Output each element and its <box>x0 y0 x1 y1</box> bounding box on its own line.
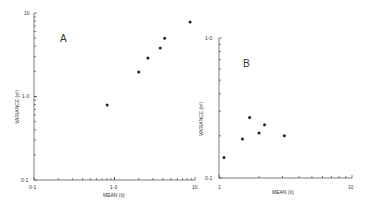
data-point <box>258 131 261 134</box>
b-x-label: MEAN (x̄) <box>272 189 294 195</box>
a-y-label: VARIANCE (s²) <box>14 90 20 124</box>
data-point <box>283 134 286 137</box>
a-x-tick-0.1: 0·1 <box>29 184 36 190</box>
chart-a <box>34 13 195 180</box>
a-y-tick-0.1: 0·1 <box>21 177 28 183</box>
b-points <box>222 116 285 159</box>
a-x-tick-10: 10 <box>192 184 198 190</box>
a-x-label: MEAN (x̄) <box>103 192 125 198</box>
data-point <box>263 123 266 126</box>
a-y-tick-10: 10 <box>24 10 30 16</box>
figure: 10 1·0 0·1 0·1 1·0 10 MEAN (x̄) VARIANCE… <box>0 0 366 207</box>
a-y-tick-1: 1·0 <box>22 93 29 99</box>
a-x-tick-1: 1·0 <box>110 184 117 190</box>
b-y-label: VARIANCE (s²) <box>198 102 204 136</box>
data-point <box>241 137 244 140</box>
b-x-tick-10: 10 <box>348 184 354 190</box>
chart-b <box>219 38 352 178</box>
data-point <box>106 104 109 107</box>
data-point <box>248 116 251 119</box>
b-y-tick-0.1: 0·1 <box>205 175 212 181</box>
data-point <box>137 71 140 74</box>
b-x-tick-1: 1 <box>218 184 221 190</box>
b-y-tick-1: 1·0 <box>205 35 212 41</box>
data-point <box>222 156 225 159</box>
a-panel-label: A <box>60 33 67 44</box>
data-point <box>159 47 162 50</box>
data-point <box>189 21 192 24</box>
b-panel-label: B <box>243 58 250 69</box>
data-point <box>163 37 166 40</box>
data-point <box>146 56 149 59</box>
a-points <box>106 21 192 107</box>
